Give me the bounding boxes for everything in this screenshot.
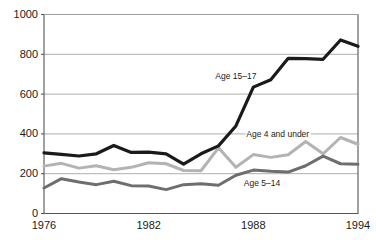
y-tick-label-200: 200: [6, 168, 38, 179]
series-label-age-4-and-under: Age 4 and under: [245, 130, 310, 139]
x-tick-label-1994: 1994: [338, 220, 376, 231]
x-tick-label-1982: 1982: [129, 220, 169, 231]
x-tick-label-1988: 1988: [233, 220, 273, 231]
data-series-group: [44, 40, 358, 190]
y-tick-label-1000: 1000: [6, 9, 38, 20]
series-label-age-15-17: Age 15–17: [214, 72, 257, 81]
y-tick-label-400: 400: [6, 128, 38, 139]
series-label-age-5-14: Age 5–14: [243, 179, 281, 188]
y-tick-label-600: 600: [6, 89, 38, 100]
chart-container: 1000 800 600 400 200 0 1976 1982 1988 19…: [0, 0, 376, 240]
y-tick-label-0: 0: [6, 208, 38, 219]
y-tick-label-800: 800: [6, 49, 38, 60]
x-tick-label-1976: 1976: [24, 220, 64, 231]
gridlines: [44, 15, 358, 174]
line-chart-plot: [0, 0, 376, 240]
